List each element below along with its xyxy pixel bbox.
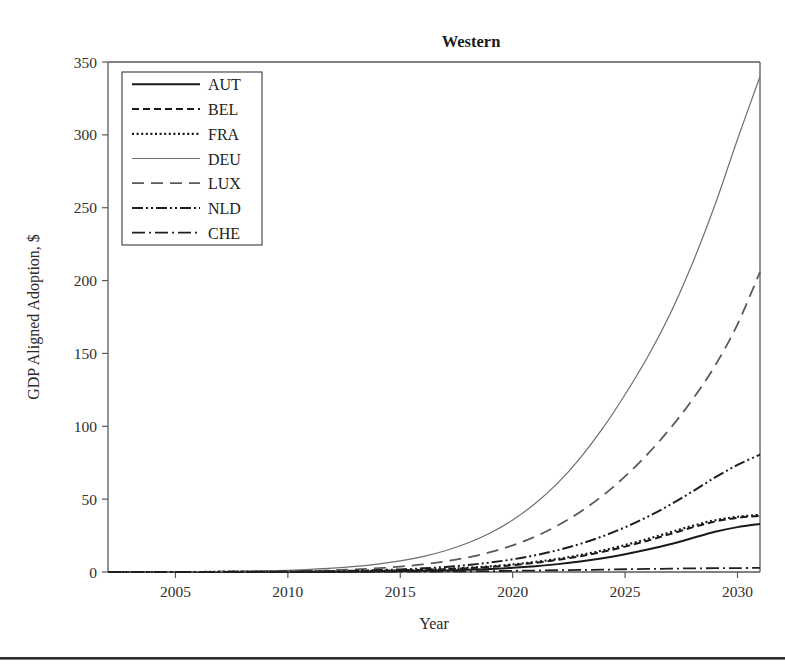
legend-label-che: CHE (208, 225, 240, 242)
x-tick-label: 2030 (722, 583, 753, 600)
x-tick-label: 2010 (272, 583, 303, 600)
y-axis-label: GDP Aligned Adoption, $ (25, 234, 43, 400)
legend-label-nld: NLD (208, 200, 241, 217)
page-title: Western (442, 32, 501, 51)
y-tick-label: 50 (82, 491, 98, 508)
x-tick-label: 2005 (160, 583, 191, 600)
y-tick-label: 350 (74, 54, 98, 71)
y-tick-label: 300 (74, 126, 98, 143)
chart-legend[interactable]: AUTBELFRADEULUXNLDCHE (122, 72, 262, 245)
y-tick-label: 200 (74, 272, 98, 289)
chart-figure: Western 050100150200250300350 2005201020… (0, 0, 785, 669)
x-tick-label: 2020 (497, 583, 528, 600)
y-tick-label: 100 (74, 418, 98, 435)
page-bottom-rule (0, 657, 785, 660)
legend-label-deu: DEU (208, 151, 241, 168)
legend-label-aut: AUT (208, 76, 241, 93)
legend-label-bel: BEL (208, 101, 238, 118)
chart-canvas: Western 050100150200250300350 2005201020… (0, 0, 785, 669)
legend-label-lux: LUX (208, 175, 241, 192)
x-axis-label: Year (419, 615, 449, 632)
y-tick-label: 150 (74, 345, 98, 362)
legend-label-fra: FRA (208, 126, 240, 143)
x-tick-label: 2025 (610, 583, 641, 600)
x-tick-label: 2015 (385, 583, 416, 600)
y-tick-label: 250 (74, 199, 98, 216)
y-tick-label: 0 (89, 564, 97, 581)
